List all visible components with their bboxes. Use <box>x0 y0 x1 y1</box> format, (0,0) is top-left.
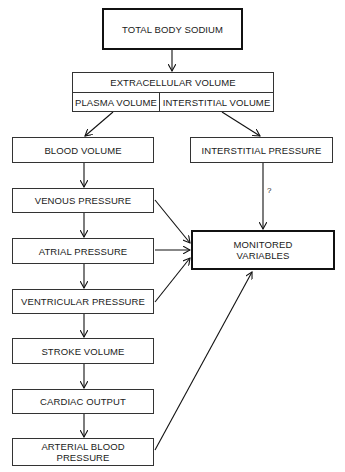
extracellular-volume-box: EXTRACELLULAR VOLUME PLASMA VOLUME INTER… <box>72 72 274 112</box>
cardiac-output-box: CARDIAC OUTPUT <box>12 389 154 414</box>
plasma-volume-cell: PLASMA VOLUME <box>73 93 160 111</box>
blood-volume-box: BLOOD VOLUME <box>12 137 154 163</box>
total-body-sodium-label: TOTAL BODY SODIUM <box>122 24 223 35</box>
interstitial-pressure-label: INTERSTITIAL PRESSURE <box>202 145 322 156</box>
monitored-variables-label: MONITORED VARIABLES <box>231 239 295 261</box>
ventricular-pressure-label: VENTRICULAR PRESSURE <box>21 296 145 307</box>
ventricular-pressure-box: VENTRICULAR PRESSURE <box>12 289 154 314</box>
venous-pressure-label: VENOUS PRESSURE <box>35 195 132 206</box>
interstitial-pressure-box: INTERSTITIAL PRESSURE <box>190 137 333 163</box>
cardiac-output-label: CARDIAC OUTPUT <box>40 396 126 407</box>
atrial-pressure-label: ATRIAL PRESSURE <box>39 246 128 257</box>
interstitial-volume-cell: INTERSTITIAL VOLUME <box>160 93 273 111</box>
total-body-sodium-box: TOTAL BODY SODIUM <box>102 8 243 50</box>
monitored-variables-box: MONITORED VARIABLES <box>191 230 335 270</box>
stroke-volume-box: STROKE VOLUME <box>12 338 154 364</box>
arterial-blood-pressure-label: ARTERIAL BLOOD PRESSURE <box>41 441 125 463</box>
blood-volume-label: BLOOD VOLUME <box>44 145 121 156</box>
atrial-pressure-box: ATRIAL PRESSURE <box>12 238 154 264</box>
venous-pressure-box: VENOUS PRESSURE <box>12 188 154 213</box>
uncertain-link-label: ? <box>267 186 271 195</box>
stroke-volume-label: STROKE VOLUME <box>41 346 124 357</box>
extracellular-volume-label: EXTRACELLULAR VOLUME <box>73 73 273 93</box>
arterial-blood-pressure-box: ARTERIAL BLOOD PRESSURE <box>12 438 154 466</box>
